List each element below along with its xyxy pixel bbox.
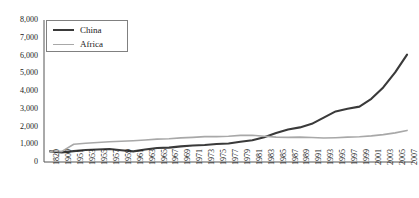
- x-axis-tick-label: 1963: [149, 149, 157, 165]
- x-axis-tick-label: 1820: [53, 149, 61, 165]
- y-axis-tick-label: 6,000: [2, 52, 38, 60]
- x-axis-tick-label: 1979: [244, 149, 252, 165]
- x-axis-tick-label: 2005: [399, 149, 407, 165]
- chart-container: 01,0002,0003,0004,0005,0006,0007,0008,00…: [0, 0, 419, 198]
- x-axis-tick-label: 1983: [268, 149, 276, 165]
- x-axis-tick-label: 1951: [77, 149, 85, 165]
- x-axis-tick-label: 1993: [327, 149, 335, 165]
- y-axis-tick-label: 0: [2, 158, 38, 166]
- x-axis-tick-label: 1995: [339, 149, 347, 165]
- x-axis-tick-label: 1997: [351, 149, 359, 165]
- y-axis-tick-label: 2,000: [2, 123, 38, 131]
- legend-entry-africa: Africa: [53, 39, 103, 49]
- x-axis-tick-label: 1991: [315, 149, 323, 165]
- x-axis-tick-label: 1953: [89, 149, 97, 165]
- data-series-group: [50, 55, 407, 153]
- legend-label-china: China: [80, 26, 102, 35]
- x-axis-tick-label: 2003: [387, 149, 395, 165]
- y-axis-tick-label: 8,000: [2, 16, 38, 24]
- chart-legend: China Africa: [46, 20, 128, 52]
- x-axis-tick-label: 1981: [256, 149, 264, 165]
- y-axis-tick-label: 4,000: [2, 87, 38, 95]
- x-axis-tick-label: 1957: [113, 149, 121, 165]
- y-axis-tick-label: 7,000: [2, 34, 38, 42]
- legend-swatch-africa: [53, 44, 74, 45]
- x-axis-tick-label: 1985: [280, 149, 288, 165]
- legend-label-africa: Africa: [80, 40, 103, 49]
- x-axis-tick-label: 1989: [303, 149, 311, 165]
- x-axis-tick-label: 2007: [411, 149, 419, 165]
- x-axis-tick-label: 1987: [292, 149, 300, 165]
- x-axis-tick-label: 1977: [232, 149, 240, 165]
- y-axis-tick-label: 1,000: [2, 140, 38, 148]
- x-axis-tick-label: 1900: [65, 149, 73, 165]
- x-axis-tick-label: 1965: [161, 149, 169, 165]
- x-axis-tick-label: 1967: [172, 149, 180, 165]
- x-axis-tick-label: 1975: [220, 149, 228, 165]
- x-axis-tick-label: 1959: [125, 149, 133, 165]
- x-axis-tick-label: 1973: [208, 149, 216, 165]
- x-axis-tick-label: 1971: [196, 149, 204, 165]
- y-axis-tick-label: 5,000: [2, 69, 38, 77]
- y-axis-tick-label: 3,000: [2, 105, 38, 113]
- x-axis-tick-label: 2001: [375, 149, 383, 165]
- x-axis-tick-label: 1961: [137, 149, 145, 165]
- x-axis-tick-label: 1969: [184, 149, 192, 165]
- legend-entry-china: China: [53, 25, 102, 35]
- legend-swatch-china: [53, 29, 74, 31]
- x-axis-tick-label: 1999: [363, 149, 371, 165]
- x-axis-tick-label: 1955: [101, 149, 109, 165]
